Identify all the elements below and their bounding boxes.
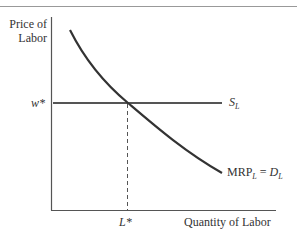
x-axis-label: Quantity of Labor bbox=[184, 215, 271, 229]
demand-label-eq: = bbox=[257, 165, 270, 179]
demand-label-sub2: L bbox=[278, 172, 282, 181]
demand-label-main2: D bbox=[270, 165, 279, 179]
demand-curve bbox=[70, 30, 222, 173]
y-axis-label: Price of Labor bbox=[2, 17, 47, 45]
l-star-tick-label: L* bbox=[119, 215, 132, 229]
supply-curve-label: SL bbox=[229, 95, 239, 109]
demand-curve-label: MRPL = DL bbox=[227, 165, 283, 179]
y-axis-label-line1: Price of bbox=[2, 17, 47, 31]
supply-label-sub: L bbox=[235, 102, 239, 111]
demand-label-main: MRP bbox=[227, 165, 252, 179]
w-star-tick-label: w* bbox=[19, 96, 45, 110]
y-axis-label-line2: Labor bbox=[2, 31, 47, 45]
